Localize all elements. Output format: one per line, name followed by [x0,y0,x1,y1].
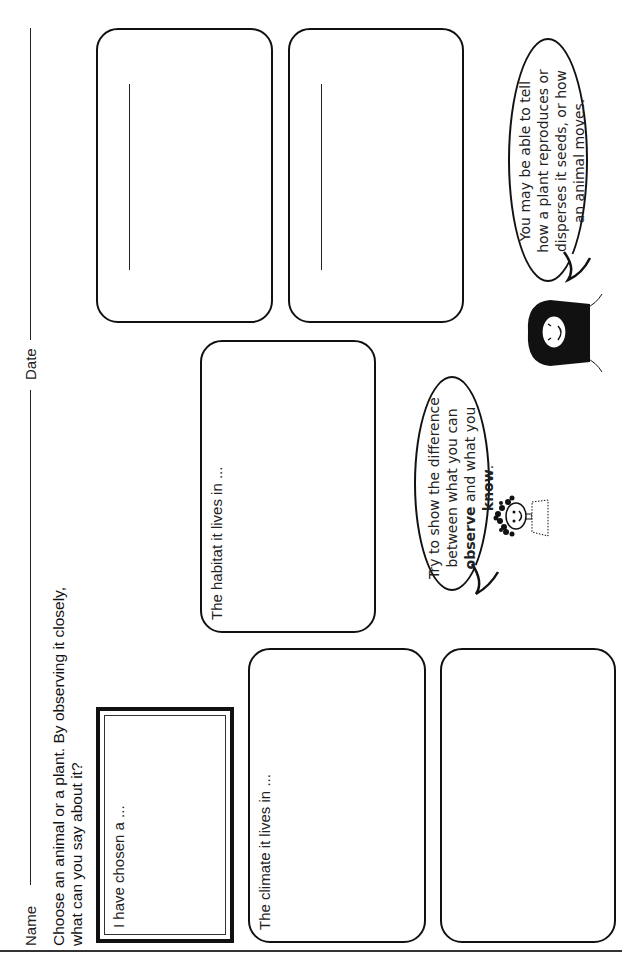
instruction-line-2: what can you say about it? [68,762,86,946]
girl-bubble-text: You may be able to tell how a plant repr… [516,50,588,272]
boy-bubble-text: Try to show the difference between what … [425,393,497,583]
boy-observe-bold: observe [462,506,478,569]
climate-box[interactable] [248,648,426,943]
bottom-blank-box[interactable] [440,648,616,943]
top-right-title-line[interactable] [321,84,322,270]
girl-line-3: disperses it seeds, or how [552,50,570,272]
instruction-line-1: Choose an animal or a plant. By observin… [50,587,68,946]
top-left-title-line[interactable] [129,84,130,270]
girl-illustration-icon [520,288,610,378]
climate-label: The climate it lives in ... [256,774,273,930]
name-line[interactable] [30,390,31,885]
footer-rule [0,950,622,952]
girl-line-4: an animal moves. [570,50,588,272]
habitat-box[interactable] [200,340,376,633]
boy-line-4-rest: . [480,465,496,469]
boy-illustration-icon [488,478,568,558]
name-label: Name [22,906,39,946]
girl-line-2: how a plant reproduces or [534,50,552,272]
girl-line-1: You may be able to tell [516,50,534,272]
boy-line-1: Try to show the difference [425,393,443,583]
top-left-box[interactable] [96,28,273,323]
boy-line-3-rest: and what you [462,407,478,507]
boy-line-3: observe and what you [461,393,479,583]
boy-line-2: between what you can [443,393,461,583]
date-line[interactable] [30,28,31,340]
habitat-label: The habitat it lives in ... [208,467,225,620]
top-right-box[interactable] [288,28,464,323]
chosen-label: I have chosen a ... [110,805,127,928]
date-label: Date [22,348,39,380]
